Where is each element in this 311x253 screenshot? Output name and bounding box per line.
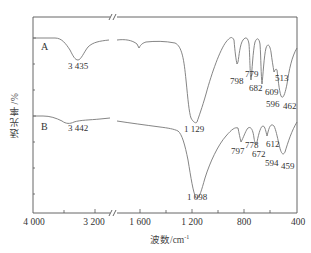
x-axis-title-base: 波数/cm bbox=[150, 235, 184, 245]
peak-label-b-459: 459 bbox=[281, 162, 295, 171]
x-tick-label-1200: 1 200 bbox=[181, 218, 202, 228]
peak-label-a-682: 682 bbox=[249, 84, 263, 93]
x-tick-label-800: 800 bbox=[237, 218, 251, 228]
peak-label-a-798: 798 bbox=[230, 77, 244, 86]
peak-label-b-3442: 3 442 bbox=[68, 124, 88, 133]
plot-frame bbox=[33, 17, 297, 213]
axis-break-icon bbox=[109, 14, 116, 216]
peak-label-a-513: 513 bbox=[275, 74, 289, 83]
peak-label-b-1098: 1 098 bbox=[187, 193, 207, 202]
peak-label-b-672: 672 bbox=[252, 150, 266, 159]
peak-label-b-612: 612 bbox=[266, 140, 280, 149]
peak-label-a-3435: 3 435 bbox=[68, 62, 88, 71]
peak-label-a-779: 779 bbox=[245, 70, 259, 79]
peak-label-a-1129: 1 129 bbox=[184, 125, 204, 134]
x-tick-label-1600: 1 600 bbox=[129, 218, 150, 228]
x-ticks bbox=[64, 209, 270, 213]
y-axis-title: 透光率/% bbox=[8, 92, 22, 138]
peak-label-b-797: 797 bbox=[231, 147, 245, 156]
x-tick-label-3200: 3 200 bbox=[83, 218, 104, 228]
x-tick-label-400: 400 bbox=[291, 218, 305, 228]
series-a-line bbox=[33, 38, 297, 123]
series-a-label: A bbox=[41, 41, 48, 52]
peak-label-a-462: 462 bbox=[283, 102, 297, 111]
x-axis-title: 波数/cm-1 bbox=[150, 232, 189, 246]
peak-label-a-596: 596 bbox=[266, 100, 280, 109]
x-axis-title-sup: -1 bbox=[184, 234, 189, 240]
x-tick-label-4000: 4 000 bbox=[23, 218, 44, 228]
peak-label-b-594: 594 bbox=[265, 159, 279, 168]
series-b-label: B bbox=[41, 121, 48, 132]
peak-label-a-609: 609 bbox=[265, 88, 279, 97]
